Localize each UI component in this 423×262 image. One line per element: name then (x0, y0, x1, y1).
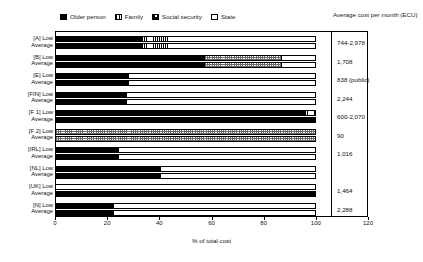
bar-segment-state (126, 100, 315, 104)
category-label-line2: Average (1, 171, 53, 178)
bar-f2-average (55, 136, 316, 142)
value-b: 1,708 (337, 58, 352, 65)
bar-segment-older-person (56, 100, 126, 104)
bar-segment-state (118, 148, 315, 152)
category-label-line2: Average (1, 190, 53, 197)
bar-e-average (55, 80, 316, 86)
x-tick-label-120: 120 (363, 220, 373, 226)
bar-uk-average (55, 191, 316, 197)
bar-segment-older-person (56, 93, 126, 97)
category-label-b: [B] LowAverage (1, 54, 53, 68)
bar-f1-average (55, 117, 316, 123)
value-column: 744-2,9781,708838 (public)2,244600-2,070… (337, 31, 423, 217)
bar-segment-social-security (56, 137, 315, 141)
x-axis-title: % of total cost (0, 237, 423, 244)
category-label-line1: [UK] Low (1, 183, 53, 190)
bar-nl-low (55, 166, 316, 172)
bar-segment-older-person (56, 63, 204, 67)
bar-segment-older-person (56, 56, 204, 60)
bar-segment-older-person (56, 211, 113, 215)
value-n: 2,288 (337, 206, 352, 213)
bar-segment-social-security (204, 63, 282, 67)
category-label-line1: [F 1] Low (1, 109, 53, 116)
legend-item-state: State (211, 14, 235, 20)
category-label-line1: [A] Low (1, 35, 53, 42)
bar-e-low (55, 73, 316, 79)
x-tick-label-0: 0 (53, 220, 56, 226)
bar-segment-family (304, 111, 314, 115)
bar-f2-low (55, 129, 316, 135)
category-label-line1: [F 2] Low (1, 128, 53, 135)
legend-item-family: Family (115, 14, 143, 20)
bar-uk-low (55, 184, 316, 190)
value-fin: 2,244 (337, 95, 352, 102)
bar-segment-state (113, 211, 315, 215)
bar-segment-state (281, 63, 315, 67)
bar-segment-state (281, 56, 315, 60)
bar-segment-older-person (56, 74, 128, 78)
bar-segment-family (141, 44, 167, 48)
category-label-line1: [IRL] Low (1, 146, 53, 153)
bar-b-average (55, 62, 316, 68)
category-label-uk: [UK] LowAverage (1, 183, 53, 197)
bar-a-average (55, 43, 316, 49)
bar-b-low (55, 55, 316, 61)
bar-segment-older-person (56, 118, 315, 122)
x-tick-label-100: 100 (311, 220, 321, 226)
bar-irl-low (55, 147, 316, 153)
legend-item-older-person: Older person (60, 14, 106, 20)
value-f1: 600-2,070 (337, 113, 365, 120)
legend-swatch-older-person-icon (60, 14, 67, 20)
bar-f1-low (55, 110, 316, 116)
bar-segment-older-person (56, 204, 113, 208)
category-label-nl: [NL] LowAverage (1, 165, 53, 179)
category-label-line1: [NL] Low (1, 165, 53, 172)
bar-n-low (55, 203, 316, 209)
bar-segment-older-person (56, 167, 160, 171)
bar-segment-older-person (56, 155, 118, 159)
category-label-f2: [F 2] LowAverage (1, 128, 53, 142)
bar-segment-state (160, 167, 315, 171)
category-label-line2: Average (1, 116, 53, 123)
category-label-a: [A] LowAverage (1, 35, 53, 49)
bar-segment-state (167, 37, 315, 41)
category-label-fin: [FIN] LowAverage (1, 91, 53, 105)
category-label-line1: [N] Low (1, 202, 53, 209)
legend-swatch-state-icon (211, 14, 218, 20)
x-tick-label-40: 40 (156, 220, 163, 226)
legend-label-family: Family (125, 14, 143, 20)
bar-groups (55, 31, 331, 217)
category-label-irl: [IRL] LowAverage (1, 146, 53, 160)
bar-fin-average (55, 99, 316, 105)
bar-segment-state (118, 155, 315, 159)
x-tick-label-80: 80 (260, 220, 267, 226)
value-a: 744-2,978 (337, 39, 365, 46)
bar-fin-low (55, 92, 316, 98)
value-column-divider (331, 31, 332, 217)
legend-label-state: State (221, 14, 235, 20)
category-label-n: [N] LowAverage (1, 202, 53, 216)
category-label-line2: Average (1, 60, 53, 67)
bar-segment-family (141, 37, 167, 41)
value-f2: 90 (337, 132, 344, 139)
legend-swatch-family-icon (115, 14, 122, 20)
category-label-line2: Average (1, 97, 53, 104)
value-column-header: Average cost per month (ECU) (333, 11, 419, 20)
category-label-line2: Average (1, 134, 53, 141)
bar-segment-older-person (56, 192, 315, 196)
bar-segment-social-security (56, 130, 315, 134)
value-uk: 1,464 (337, 187, 352, 194)
bar-segment-social-security (204, 56, 282, 60)
value-irl: 1,016 (337, 150, 352, 157)
bar-a-low (55, 36, 316, 42)
category-axis-labels: [A] LowAverage[B] LowAverage[E] LowAvera… (0, 31, 53, 217)
bar-segment-state (56, 185, 315, 189)
category-label-line1: [E] Low (1, 72, 53, 79)
value-e: 838 (public) (337, 76, 369, 83)
bar-segment-state (160, 174, 315, 178)
x-tick-label-60: 60 (208, 220, 215, 226)
x-axis: 020406080100120 (55, 217, 368, 229)
legend-swatch-social-security-icon (152, 14, 159, 20)
bar-segment-older-person (56, 148, 118, 152)
category-label-line2: Average (1, 208, 53, 215)
